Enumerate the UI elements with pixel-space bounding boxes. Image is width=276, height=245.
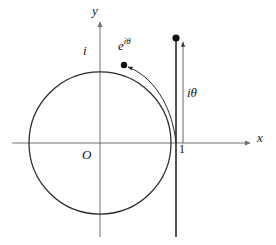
exponential-arc [128, 67, 176, 143]
itheta-segment-label: iθ [187, 86, 197, 99]
diagram-canvas [0, 0, 276, 245]
imaginary-unit-label: i [83, 44, 87, 57]
point-e-itheta [121, 62, 127, 68]
e-itheta-base: e [118, 38, 124, 53]
point-itheta [172, 34, 179, 41]
y-axis-label: y [92, 4, 98, 17]
x-axis-label: x [257, 131, 263, 144]
origin-label: O [82, 148, 91, 161]
unit-point-label: 1 [179, 143, 185, 155]
figure-container: y x O i 1 iθ eiθ [0, 0, 276, 245]
e-itheta-exponent: iθ [124, 36, 131, 46]
e-itheta-point-label: eiθ [118, 38, 131, 52]
